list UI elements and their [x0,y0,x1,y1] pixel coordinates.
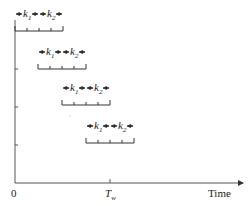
time-axis-label: Time [208,187,231,199]
k2-label: k2 [70,45,79,60]
k1-label: k1 [46,45,54,60]
window-2: k1k2 [38,45,86,69]
k2-label: k2 [94,81,103,96]
k2-label: k2 [47,7,56,22]
window-3: k1k2 [62,81,110,105]
k1-label: k1 [94,119,102,134]
tw-label: Tw [105,187,116,202]
k1-label: k1 [70,81,78,96]
k2-label: k2 [118,119,127,134]
k1-label: k1 [23,7,31,22]
stray-dot [69,115,70,116]
window-1: k1k2 [15,7,63,31]
window-4: k1k2 [86,119,134,143]
windows-layer: k1k2k1k2k1k2k1k2 [15,7,134,143]
origin-label: 0 [11,187,17,199]
sliding-window-diagram: 0 Tw Time k1k2k1k2k1k2k1k2 [0,0,251,206]
